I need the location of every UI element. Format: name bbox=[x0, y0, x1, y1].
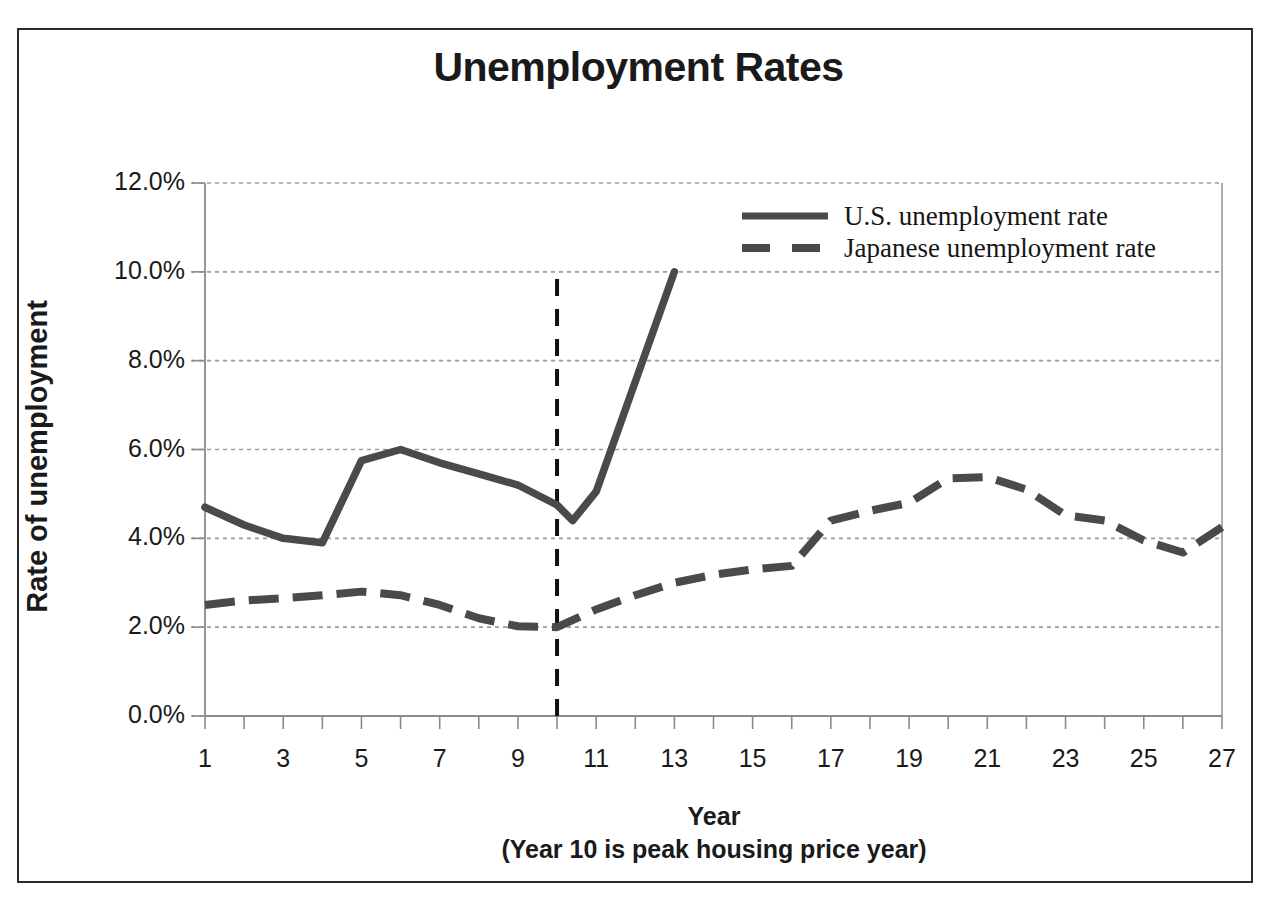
legend-label-japan: Japanese unemployment rate bbox=[844, 233, 1156, 264]
series-line-us bbox=[205, 272, 674, 543]
chart-canvas bbox=[0, 0, 1277, 910]
legend-item-japan: Japanese unemployment rate bbox=[740, 232, 1220, 264]
x-axis-ticks bbox=[205, 716, 1222, 729]
x-tick-label: 23 bbox=[1026, 744, 1106, 773]
x-tick-label: 1 bbox=[165, 744, 245, 773]
y-tick-label: 12.0% bbox=[0, 167, 185, 196]
x-tick-label: 3 bbox=[243, 744, 323, 773]
y-tick-label: 0.0% bbox=[0, 700, 185, 729]
x-tick-label: 25 bbox=[1104, 744, 1184, 773]
x-tick-label: 15 bbox=[713, 744, 793, 773]
chart-figure: Unemployment Rates Rate of unemployment … bbox=[0, 0, 1277, 910]
y-tick-label: 6.0% bbox=[0, 434, 185, 463]
x-tick-label: 9 bbox=[478, 744, 558, 773]
x-tick-label: 27 bbox=[1182, 744, 1262, 773]
x-tick-label: 5 bbox=[321, 744, 401, 773]
x-axis-title-main: Year bbox=[205, 800, 1223, 833]
legend-swatch-solid bbox=[740, 205, 830, 227]
x-tick-label: 17 bbox=[791, 744, 871, 773]
x-tick-label: 21 bbox=[947, 744, 1027, 773]
x-tick-label: 19 bbox=[869, 744, 949, 773]
y-axis-ticks bbox=[192, 183, 205, 716]
x-tick-label: 7 bbox=[400, 744, 480, 773]
x-axis-title: Year (Year 10 is peak housing price year… bbox=[205, 800, 1223, 866]
y-tick-label: 2.0% bbox=[0, 611, 185, 640]
series-line-japan bbox=[205, 477, 1222, 627]
x-axis-title-sub: (Year 10 is peak housing price year) bbox=[205, 833, 1223, 866]
legend-label-us: U.S. unemployment rate bbox=[844, 201, 1108, 232]
plot-area bbox=[0, 0, 1277, 910]
x-tick-label: 11 bbox=[556, 744, 636, 773]
y-tick-label: 8.0% bbox=[0, 345, 185, 374]
legend-swatch-dashed bbox=[740, 237, 830, 259]
y-tick-label: 10.0% bbox=[0, 256, 185, 285]
y-tick-label: 4.0% bbox=[0, 522, 185, 551]
legend-item-us: U.S. unemployment rate bbox=[740, 200, 1220, 232]
x-tick-label: 13 bbox=[634, 744, 714, 773]
chart-legend: U.S. unemployment rate Japanese unemploy… bbox=[740, 200, 1220, 264]
